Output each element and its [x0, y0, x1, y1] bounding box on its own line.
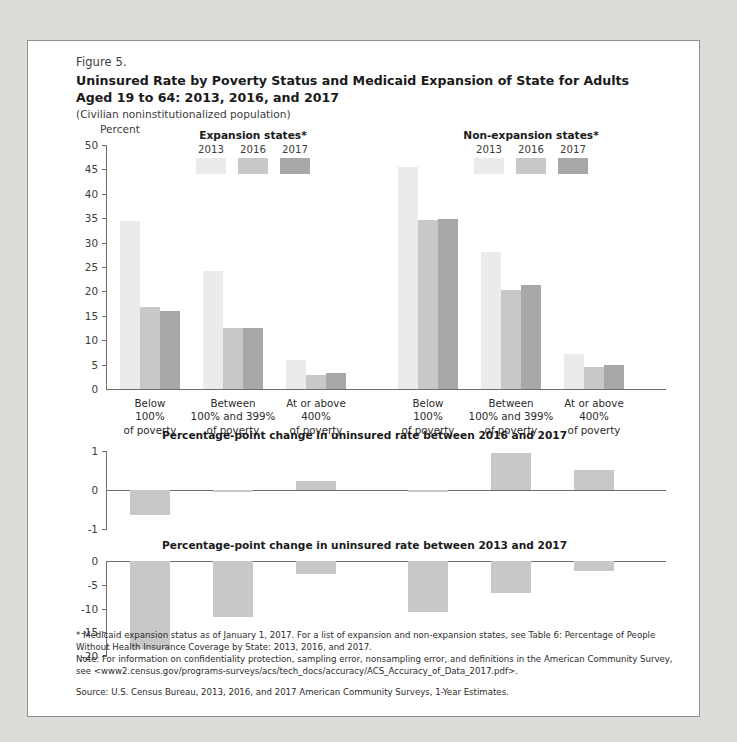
change-bar: [296, 561, 336, 574]
y-axis-tick-label: 5: [72, 359, 98, 371]
change-bar: [408, 490, 448, 492]
y-axis-tick-label: 20: [72, 285, 98, 297]
y-axis-tick-mark: [102, 267, 107, 268]
legend-swatch-2017: [558, 158, 588, 174]
legend-swatch-2013: [474, 158, 504, 174]
legend-year-label: 2016: [238, 144, 268, 155]
legend-non-expansion-states: Non-expansion states*201320162017: [436, 129, 626, 174]
y-axis-tick-label: 10: [72, 334, 98, 346]
figure-container: Figure 5. Uninsured Rate by Poverty Stat…: [27, 40, 700, 717]
bar-2013: [564, 354, 584, 389]
bar-2016: [418, 220, 438, 389]
bar-2016: [306, 375, 326, 389]
page-canvas: Figure 5. Uninsured Rate by Poverty Stat…: [0, 0, 737, 742]
figure-header: Figure 5. Uninsured Rate by Poverty Stat…: [76, 55, 666, 120]
change-bar: [130, 490, 170, 515]
change-bar: [574, 470, 614, 490]
legend-swatch-2013: [196, 158, 226, 174]
figure-subtitle: (Civilian noninstitutionalized populatio…: [76, 108, 666, 120]
figure-number: Figure 5.: [76, 55, 666, 69]
bar-2016: [223, 328, 243, 389]
y-axis-tick-label: 45: [72, 163, 98, 175]
legend-expansion-states: Expansion states*201320162017: [158, 129, 348, 174]
legend-year-label: 2017: [558, 144, 588, 155]
y-axis-tick-label: 35: [72, 212, 98, 224]
category-label-line: 400%: [534, 410, 654, 423]
chart-change-2016-2017: Percentage-point change in uninsured rat…: [28, 429, 701, 544]
y-axis-tick-label: -10: [72, 603, 98, 615]
change-bar: [491, 561, 531, 593]
bar-2013: [286, 360, 306, 389]
y-axis-tick-label: 0: [72, 383, 98, 395]
footnote-source: Source: U.S. Census Bureau, 2013, 2016, …: [76, 686, 676, 698]
y-axis-tick-mark: [102, 194, 107, 195]
category-label-line: At or above: [534, 397, 654, 410]
bar-2017: [604, 365, 624, 389]
category-label-line: At or above: [256, 397, 376, 410]
y-axis-tick-label: 40: [72, 188, 98, 200]
bar-2017: [326, 373, 346, 389]
change-bar: [491, 453, 531, 490]
bar-2017: [160, 311, 180, 389]
zero-baseline: [106, 490, 666, 491]
bar-2013: [203, 271, 223, 389]
bar-2016: [501, 290, 521, 389]
y-axis-title: Percent: [100, 123, 140, 135]
change-bar: [296, 481, 336, 490]
change-bar: [574, 561, 614, 571]
y-axis-tick-label: 30: [72, 237, 98, 249]
panel-title-change-2013-2017: Percentage-point change in uninsured rat…: [28, 539, 701, 551]
y-axis-tick-label: 50: [72, 139, 98, 151]
y-axis-tick-label: -5: [72, 579, 98, 591]
y-axis-tick-mark: [102, 365, 107, 366]
legend-year-label: 2017: [280, 144, 310, 155]
y-axis-tick-label: 25: [72, 261, 98, 273]
legend-year-label: 2013: [196, 144, 226, 155]
bar-2013: [481, 252, 501, 389]
footnote-general-note: Note: For information on confidentiality…: [76, 653, 676, 678]
y-axis-tick-label: -1: [72, 523, 98, 535]
change-bar: [213, 490, 253, 492]
bar-2017: [243, 328, 263, 389]
y-axis-tick-mark: [102, 609, 107, 610]
y-axis-tick-mark: [102, 316, 107, 317]
bar-2013: [120, 221, 140, 389]
category-label-line: 400%: [256, 410, 376, 423]
y-axis-tick-mark: [102, 145, 107, 146]
legend-swatches: [158, 158, 348, 174]
legend-swatch-2017: [280, 158, 310, 174]
bar-2013: [398, 167, 418, 389]
chart-main-uninsured-rate: Percent 05101520253035404550Below100%of …: [28, 123, 701, 413]
legend-title: Non-expansion states*: [436, 129, 626, 141]
y-axis-tick-label: 1: [72, 445, 98, 457]
bar-2016: [140, 307, 160, 389]
y-axis-tick-mark: [102, 451, 107, 452]
legend-year-label: 2016: [516, 144, 546, 155]
change-bar: [408, 561, 448, 612]
bar-2017: [521, 285, 541, 389]
x-axis-line: [106, 389, 666, 390]
change-bar: [213, 561, 253, 617]
legend-swatches: [436, 158, 626, 174]
y-axis-tick-mark: [102, 218, 107, 219]
y-axis-tick-mark: [102, 169, 107, 170]
y-axis-tick-label: 0: [72, 484, 98, 496]
footnote-expansion-status: * Medicaid expansion status as of Januar…: [76, 629, 676, 654]
y-axis-tick-label: 15: [72, 310, 98, 322]
legend-title: Expansion states*: [158, 129, 348, 141]
legend-swatch-2016: [516, 158, 546, 174]
y-axis-tick-mark: [102, 529, 107, 530]
figure-title-line2: Aged 19 to 64: 2013, 2016, and 2017: [76, 89, 666, 106]
legend-year-label: 2013: [474, 144, 504, 155]
y-axis-tick-label: 0: [72, 555, 98, 567]
y-axis-tick-mark: [102, 585, 107, 586]
y-axis-tick-mark: [102, 243, 107, 244]
legend-year-labels: 201320162017: [158, 144, 348, 155]
figure-title-line1: Uninsured Rate by Poverty Status and Med…: [76, 72, 666, 89]
bar-2017: [438, 219, 458, 389]
y-axis-tick-mark: [102, 340, 107, 341]
legend-swatch-2016: [238, 158, 268, 174]
panel-title-change-2016-2017: Percentage-point change in uninsured rat…: [28, 429, 701, 441]
y-axis-tick-mark: [102, 291, 107, 292]
legend-year-labels: 201320162017: [436, 144, 626, 155]
